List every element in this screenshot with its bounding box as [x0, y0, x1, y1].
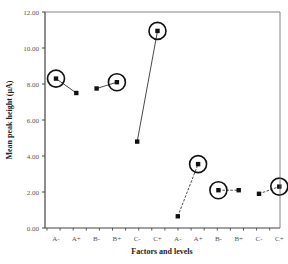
- y-tick-label: 4.00: [27, 153, 40, 161]
- series-5: [210, 182, 241, 199]
- y-axis-ticks: 0.002.004.006.008.0010.0012.00: [23, 9, 45, 233]
- data-point-marker: [237, 188, 241, 192]
- series-line: [137, 31, 157, 142]
- x-axis-ticks: A-A+B-B+C-C+A-A+B-B+C-C+: [47, 228, 284, 243]
- x-tick-label: B-: [215, 235, 223, 243]
- data-point-marker: [54, 76, 58, 80]
- y-tick-label: 8.00: [27, 81, 40, 89]
- plot-area: [48, 22, 288, 218]
- x-tick-label: C+: [153, 235, 162, 243]
- y-tick-label: 2.00: [27, 189, 40, 197]
- y-tick-label: 12.00: [23, 9, 39, 17]
- data-point-marker: [216, 188, 220, 192]
- data-point-marker: [94, 86, 98, 90]
- y-tick-label: 10.00: [23, 45, 39, 53]
- data-point-marker: [257, 192, 261, 196]
- data-point-marker: [115, 80, 119, 84]
- y-tick-label: 6.00: [27, 117, 40, 125]
- data-point-marker: [196, 162, 200, 166]
- x-tick-label: A-: [52, 235, 60, 243]
- data-point-marker: [277, 184, 281, 188]
- series-2: [94, 74, 125, 91]
- y-tick-label: 0.00: [27, 225, 40, 233]
- series-line: [259, 187, 279, 194]
- x-axis-title: Factors and levels: [131, 247, 192, 256]
- x-tick-label: A+: [194, 235, 203, 243]
- series-1: [48, 70, 79, 95]
- x-tick-label: B+: [113, 235, 122, 243]
- x-tick-label: A-: [174, 235, 182, 243]
- series-6: [257, 178, 288, 196]
- x-tick-label: C+: [275, 235, 284, 243]
- data-point-marker: [74, 91, 78, 95]
- x-tick-label: B-: [93, 235, 101, 243]
- x-tick-label: C-: [134, 235, 142, 243]
- data-point-marker: [135, 139, 139, 143]
- data-point-marker: [155, 29, 159, 33]
- series-line: [97, 82, 117, 88]
- chart: 0.002.004.006.008.0010.0012.00 A-A+B-B+C…: [0, 0, 288, 264]
- x-tick-label: C-: [256, 235, 264, 243]
- series-4: [176, 156, 207, 219]
- series-3: [135, 22, 166, 143]
- data-point-marker: [176, 214, 180, 218]
- y-axis-title: Mean peak height (µA): [5, 80, 14, 159]
- x-tick-label: A+: [72, 235, 81, 243]
- x-tick-label: B+: [234, 235, 243, 243]
